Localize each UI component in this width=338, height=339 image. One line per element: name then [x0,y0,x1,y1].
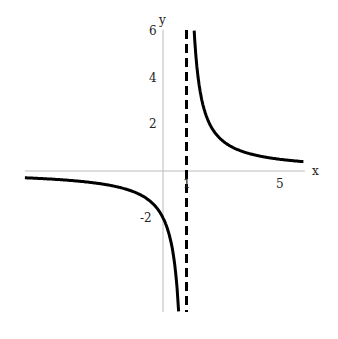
x-axis-label: x [312,164,319,178]
y-tick-2: 2 [149,117,157,131]
hyperbola-chart: x y 1 5 6 4 2 -2 [0,0,338,339]
y-tick-4: 4 [149,71,157,85]
y-axis-label: y [158,13,166,27]
y-tick-6: 6 [149,24,157,38]
y-tick-neg2: -2 [140,211,152,225]
left-branch-curve [25,178,179,312]
x-tick-1: 1 [183,177,191,191]
x-tick-5: 5 [276,177,284,191]
right-branch-curve [194,31,303,162]
